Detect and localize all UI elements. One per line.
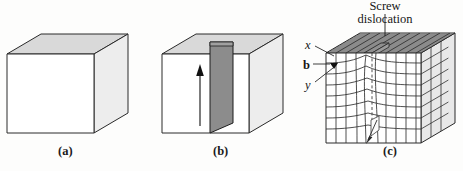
caption-panel-a: (a) <box>58 144 73 159</box>
shear-plane-top-edge <box>210 42 233 46</box>
caption-panel-c: (c) <box>383 144 397 159</box>
caption-panel-b: (b) <box>213 144 228 159</box>
cube-a-front-face <box>7 54 94 133</box>
axis-label-x: x <box>305 39 311 52</box>
screw-dislocation-figure: Screw dislocation x b y (a) (b) (c) <box>0 0 463 171</box>
panel-b-cube <box>162 34 283 133</box>
panel-c-screw-dislocation <box>313 14 455 144</box>
cube-b-front-face <box>162 54 249 133</box>
burgers-vector-label: b <box>303 59 310 72</box>
axis-label-y: y <box>305 79 311 92</box>
title-line-2: dislocation <box>337 13 433 26</box>
panel-a-cube <box>7 34 128 133</box>
screw-dislocation-title: Screw dislocation <box>337 0 433 26</box>
shear-plane <box>210 42 233 133</box>
